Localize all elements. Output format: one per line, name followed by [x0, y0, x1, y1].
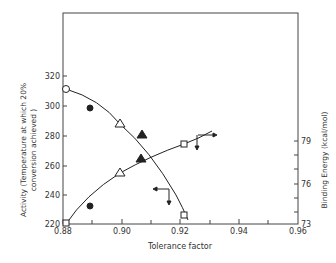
plot-frame — [63, 13, 298, 224]
binding-energy-points — [63, 141, 187, 226]
svg-text:73: 73 — [301, 220, 311, 229]
point-filled-circle — [87, 203, 93, 209]
svg-text:76: 76 — [301, 180, 311, 189]
svg-text:0.92: 0.92 — [171, 227, 189, 236]
point-open-triangle — [115, 168, 125, 176]
point-open-circle — [63, 86, 70, 93]
svg-text:280: 280 — [45, 132, 60, 141]
right-axis-labels: 73 76 79 — [301, 137, 311, 229]
svg-text:240: 240 — [45, 191, 60, 200]
right-axis-title: Binding Energy (kcal/mol) — [320, 111, 329, 208]
x-axis-ticks — [92, 219, 268, 224]
point-filled-circle — [87, 105, 93, 111]
right-axis-ticks — [294, 141, 298, 212]
point-open-square — [181, 212, 187, 218]
activity-points — [63, 86, 188, 219]
binding-energy-curve — [66, 131, 212, 224]
left-axis-title-line1: Activity (Temperature at which 20% — [19, 83, 28, 217]
svg-text:0.94: 0.94 — [230, 227, 248, 236]
svg-text:300: 300 — [45, 102, 60, 111]
svg-text:0.90: 0.90 — [113, 227, 131, 236]
left-axis-labels: 220 240 260 280 300 320 — [45, 72, 60, 229]
x-axis-title: Tolerance factor — [147, 242, 213, 251]
chart: 220 240 260 280 300 320 0.88 0.90 0.92 0… — [0, 0, 336, 263]
activity-curve — [66, 89, 188, 220]
svg-text:0.88: 0.88 — [54, 227, 72, 236]
point-filled-triangle — [136, 154, 146, 162]
left-axis-ticks — [63, 76, 67, 224]
point-open-square — [63, 220, 69, 226]
x-axis-labels: 0.88 0.90 0.92 0.94 0.96 — [54, 227, 307, 236]
svg-text:320: 320 — [45, 72, 60, 81]
point-filled-triangle — [137, 130, 147, 138]
point-open-square — [181, 141, 187, 147]
svg-text:79: 79 — [301, 137, 311, 146]
left-axis-title-line2: conversion achieved ) — [29, 109, 38, 192]
svg-text:260: 260 — [45, 162, 60, 171]
